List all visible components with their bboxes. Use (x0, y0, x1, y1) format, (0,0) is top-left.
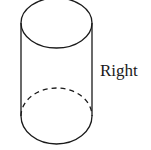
bottom-front-arc (21, 116, 92, 144)
cylinder-label: Right (100, 61, 138, 80)
cylinder (21, 0, 92, 144)
top-ellipse (21, 0, 92, 48)
bottom-back-arc-dashed (21, 88, 92, 116)
cylinder-diagram: Right (0, 0, 151, 150)
